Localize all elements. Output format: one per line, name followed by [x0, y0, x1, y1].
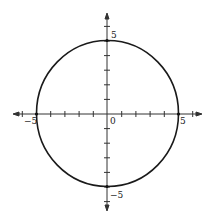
circle-plot: −5 0 5 5 −5 — [0, 0, 211, 221]
y-pos-label: 5 — [111, 30, 117, 40]
x-neg-label: −5 — [24, 116, 38, 126]
y-neg-label: −5 — [110, 190, 124, 200]
origin-label: 0 — [110, 116, 116, 126]
y-axis — [105, 13, 109, 211]
x-pos-label: 5 — [180, 116, 186, 126]
